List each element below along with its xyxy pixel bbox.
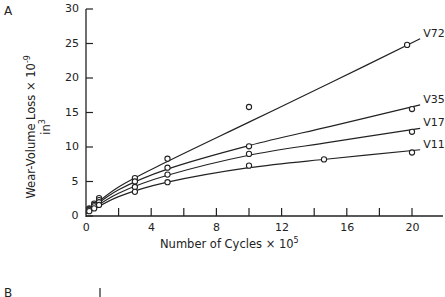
x-tick-label: 16 — [340, 221, 354, 234]
y-tick-label: 30 — [65, 2, 79, 15]
data-point-v35 — [246, 144, 251, 149]
data-point-v72 — [246, 104, 251, 109]
data-point-v17 — [246, 151, 251, 156]
data-point-v11 — [92, 206, 97, 211]
y-tick-label: 5 — [72, 175, 79, 188]
y-tick-label: 15 — [65, 106, 79, 119]
x-tick-label: 0 — [83, 221, 90, 234]
data-point-v35 — [165, 165, 170, 170]
panel-label-b: B — [4, 286, 12, 297]
x-tick-label: 4 — [148, 221, 155, 234]
x-tick-label: 8 — [213, 221, 220, 234]
data-point-v11 — [87, 209, 92, 214]
y-tick-label: 20 — [65, 71, 79, 84]
data-point-v35 — [132, 179, 137, 184]
series-label-v17: V17 — [423, 116, 445, 129]
data-point-v11 — [321, 157, 326, 162]
series-label-v35: V35 — [423, 93, 445, 106]
panel-label-a: A — [4, 4, 12, 18]
x-tick-label: 12 — [275, 221, 289, 234]
series-label-v72: V72 — [423, 27, 445, 40]
series-line-v17 — [86, 128, 420, 213]
series-line-v35 — [86, 105, 420, 213]
y-tick-label: 0 — [72, 209, 79, 222]
y-axis-label: Wear-Volume Loss × 10-9 in3 — [23, 47, 53, 207]
data-point-v17 — [409, 129, 414, 134]
data-point-v11 — [132, 189, 137, 194]
data-point-v35 — [409, 106, 414, 111]
data-point-v11 — [246, 163, 251, 168]
data-point-v72 — [405, 42, 410, 47]
y-tick-label: 10 — [65, 140, 79, 153]
x-tick-label: 20 — [405, 221, 419, 234]
series-label-v11: V11 — [423, 138, 445, 151]
data-point-v17 — [165, 172, 170, 177]
data-point-v11 — [165, 180, 170, 185]
data-point-v11 — [96, 202, 101, 207]
data-point-v11 — [409, 150, 414, 155]
data-point-v72 — [165, 156, 170, 161]
y-tick-label: 25 — [65, 37, 79, 50]
x-axis-label: Number of Cycles × 105 — [160, 236, 299, 251]
